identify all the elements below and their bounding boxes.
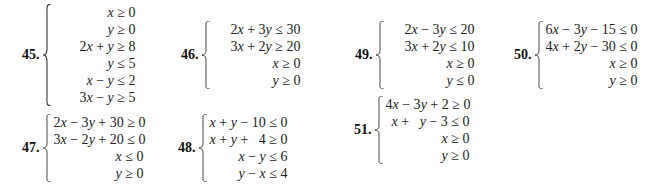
- problem-47: 47. 2x − 3y + 30 ≥ 0 3x − 2y + 20 ≤ 0 x …: [22, 114, 144, 182]
- inequality-system: x + y − 10 ≤ 0 x + y + 4 ≥ 0 x − y ≤ 6 y…: [199, 114, 288, 182]
- inequality: 4x − 3y + 2 ≥ 0: [386, 96, 470, 113]
- inequality: 3x + 2y ≤ 10: [387, 38, 475, 55]
- inequality: y ≥ 0: [213, 72, 301, 89]
- left-brace-icon: [43, 4, 52, 106]
- inequality: x ≥ 0: [387, 55, 475, 72]
- inequality-system: 6x − 3y − 15 ≤ 0 4x + 2y − 30 ≤ 0 x ≥ 0 …: [535, 21, 638, 89]
- problem-number: 45.: [22, 47, 40, 63]
- problem-50: 50. 6x − 3y − 15 ≤ 0 4x + 2y − 30 ≤ 0 x …: [514, 21, 638, 89]
- problem-48: 48. x + y − 10 ≤ 0 x + y + 4 ≥ 0 x − y ≤…: [178, 114, 288, 182]
- left-brace-icon: [199, 114, 208, 182]
- inequality: x ≥ 0: [213, 55, 301, 72]
- inequality: x ≤ 0: [54, 148, 144, 165]
- left-brace-icon: [375, 96, 384, 164]
- problem-number: 47.: [22, 140, 40, 156]
- problem-46: 46. 2x + 3y ≤ 30 3x + 2y ≥ 20 x ≥ 0 y ≥ …: [181, 21, 301, 89]
- problem-45: 45. x ≥ 0 y ≥ 0 2x + y ≥ 8 y ≤ 5 x − y ≤…: [22, 4, 136, 106]
- inequality-system: 2x − 3y ≤ 20 3x + 2y ≤ 10 x ≥ 0 y ≤ 0: [376, 21, 475, 89]
- inequality: 6x − 3y − 15 ≤ 0: [546, 21, 638, 38]
- inequality: y ≤ 5: [54, 55, 136, 72]
- inequality: x ≥ 0: [386, 130, 470, 147]
- inequality: x − y ≤ 6: [210, 148, 288, 165]
- inequality: 2x − 3y ≤ 20: [387, 21, 475, 38]
- inequality: x ≥ 0: [546, 55, 638, 72]
- inequality: 2x + 3y ≤ 30: [213, 21, 301, 38]
- inequality: x + y + 4 ≥ 0: [210, 131, 288, 148]
- problem-number: 51.: [354, 122, 372, 138]
- inequality-system: 2x + 3y ≤ 30 3x + 2y ≥ 20 x ≥ 0 y ≥ 0: [202, 21, 301, 89]
- inequality: 2x + y ≥ 8: [54, 38, 136, 55]
- inequality: x − y ≤ 2: [54, 72, 136, 89]
- problem-49: 49. 2x − 3y ≤ 20 3x + 2y ≤ 10 x ≥ 0 y ≤ …: [355, 21, 475, 89]
- inequality: 2x − 3y + 30 ≥ 0: [54, 114, 144, 131]
- inequality: y ≥ 0: [54, 165, 144, 182]
- inequality-system: 4x − 3y + 2 ≥ 0 x + y − 3 ≤ 0 x ≥ 0 y ≥ …: [375, 96, 470, 164]
- inequality: x + y − 3 ≤ 0: [386, 113, 470, 130]
- left-brace-icon: [43, 114, 52, 182]
- inequality: x + y − 10 ≤ 0: [210, 114, 288, 131]
- left-brace-icon: [202, 21, 211, 89]
- problem-number: 46.: [181, 47, 199, 63]
- inequality-system: x ≥ 0 y ≥ 0 2x + y ≥ 8 y ≤ 5 x − y ≤ 2 3…: [43, 4, 136, 106]
- left-brace-icon: [376, 21, 385, 89]
- inequality: 4x + 2y − 30 ≤ 0: [546, 38, 638, 55]
- problem-number: 50.: [514, 47, 532, 63]
- inequality: 3x − y ≥ 5: [54, 89, 136, 106]
- inequality: x ≥ 0: [54, 4, 136, 21]
- problem-number: 48.: [178, 140, 196, 156]
- problem-number: 49.: [355, 47, 373, 63]
- inequality: y − x ≤ 4: [210, 165, 288, 182]
- inequality: y ≥ 0: [386, 147, 470, 164]
- inequality: y ≥ 0: [546, 72, 638, 89]
- inequality: y ≤ 0: [387, 72, 475, 89]
- inequality: y ≥ 0: [54, 21, 136, 38]
- inequality-system: 2x − 3y + 30 ≥ 0 3x − 2y + 20 ≤ 0 x ≤ 0 …: [43, 114, 144, 182]
- inequality: 3x − 2y + 20 ≤ 0: [54, 131, 144, 148]
- inequality: 3x + 2y ≥ 20: [213, 38, 301, 55]
- left-brace-icon: [535, 21, 544, 89]
- problem-51: 51. 4x − 3y + 2 ≥ 0 x + y − 3 ≤ 0 x ≥ 0 …: [354, 96, 470, 164]
